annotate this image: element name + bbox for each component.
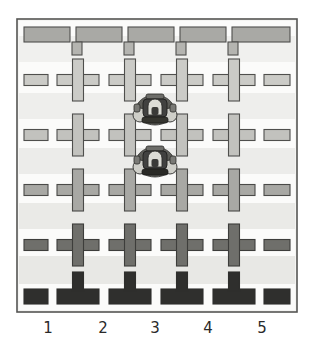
edge-stub-left — [24, 75, 48, 86]
edge-stub-right — [264, 75, 290, 86]
maze-interior — [19, 21, 295, 310]
column-label-3: 3 — [143, 318, 167, 338]
edge-stub-right — [264, 289, 290, 304]
column-label-1: 1 — [36, 318, 60, 338]
column-label-2: 2 — [91, 318, 115, 338]
edge-stub-right — [264, 240, 290, 251]
edge-stub-right — [264, 185, 290, 196]
edge-stub-left — [24, 130, 48, 141]
edge-stub-right — [264, 130, 290, 141]
edge-stub-left — [24, 185, 48, 196]
edge-stub-left — [24, 289, 48, 304]
micrograph-stage — [0, 0, 314, 359]
maze-array-drawing — [0, 0, 314, 359]
column-label-5: 5 — [250, 318, 274, 338]
figure-root: 1 2 3 4 5 — [0, 0, 314, 359]
column-label-4: 4 — [196, 318, 220, 338]
top-wall-row — [24, 27, 290, 42]
column-label-row: 1 2 3 4 5 — [0, 318, 314, 344]
edge-stub-left — [24, 240, 48, 251]
